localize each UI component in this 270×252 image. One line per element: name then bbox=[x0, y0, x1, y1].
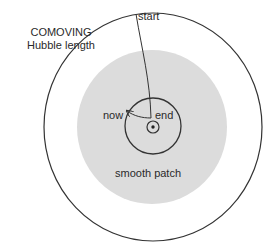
now-label: now bbox=[103, 109, 123, 122]
comoving-hubble-length-label: COMOVING Hubble length bbox=[25, 26, 97, 52]
smooth-patch-label: smooth patch bbox=[115, 167, 181, 180]
comoving-label-line2: Hubble length bbox=[25, 39, 97, 52]
end-label: end bbox=[155, 109, 173, 122]
comoving-hubble-diagram: COMOVING Hubble length start now end smo… bbox=[0, 0, 270, 252]
start-label: start bbox=[138, 10, 159, 23]
observer-dot bbox=[151, 125, 154, 128]
comoving-label-line1: COMOVING bbox=[25, 26, 97, 39]
